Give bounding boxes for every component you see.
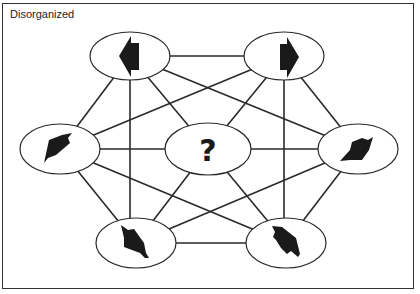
network-diagram: ? [0, 0, 420, 294]
question-mark-icon: ? [199, 133, 216, 168]
